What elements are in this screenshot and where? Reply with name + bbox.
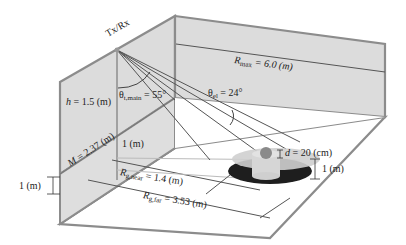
target-1m-text: 1 (m) xyxy=(322,163,344,174)
theta-main-label: θt,main = 55° xyxy=(119,90,166,102)
target-1m-label: 1 (m) xyxy=(322,164,344,174)
theta-main-value: = 55° xyxy=(144,89,166,100)
h-symbol: h xyxy=(66,96,71,107)
h-value: = 1.5 (m) xyxy=(74,96,112,107)
theta-main-subscript: t,main xyxy=(124,94,142,102)
theta-el-label: θel = 24° xyxy=(208,88,243,100)
inner-1m-label: 1 (m) xyxy=(122,139,144,149)
left-1m-marker xyxy=(47,177,60,194)
d-value: = 20 (cm) xyxy=(293,147,333,158)
theta-el-value: = 24° xyxy=(220,87,242,98)
inner-1m-text: 1 (m) xyxy=(122,138,144,149)
left-1m-label: 1 (m) xyxy=(19,181,41,191)
target-sphere xyxy=(260,147,272,159)
d-symbol: d xyxy=(285,147,290,158)
theta-el-subscript: el xyxy=(213,92,218,100)
left-1m-text: 1 (m) xyxy=(19,180,41,191)
target-cylinder-bottom xyxy=(252,172,280,180)
h-label: h = 1.5 (m) xyxy=(66,97,111,107)
d-label: d = 20 (cm) xyxy=(285,148,332,158)
r-max-subscript: max xyxy=(240,60,253,69)
tx-rx-point xyxy=(115,48,120,53)
